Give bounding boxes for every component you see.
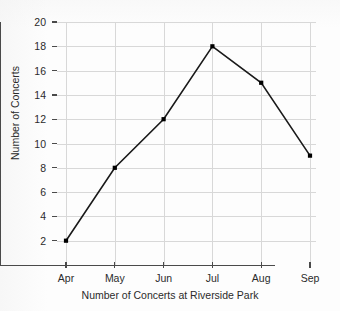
y-tick-mark bbox=[52, 192, 57, 193]
y-tick-mark bbox=[52, 240, 57, 241]
y-tick-mark bbox=[52, 94, 57, 95]
plot-area bbox=[57, 22, 316, 265]
x-tick-mark bbox=[114, 262, 115, 268]
y-tick-label: 16 bbox=[24, 66, 46, 77]
y-tick-label: 20 bbox=[24, 17, 46, 28]
series-markers bbox=[64, 44, 312, 243]
line-chart: 2468101214161820 AprMayJunJulAugSep Numb… bbox=[0, 0, 340, 311]
x-tick-label: Jul bbox=[192, 273, 232, 284]
y-tick-mark bbox=[52, 167, 57, 168]
x-tick-label: May bbox=[95, 273, 135, 284]
y-axis-line bbox=[0, 22, 1, 265]
data-point-marker bbox=[210, 44, 214, 48]
data-point-marker bbox=[308, 154, 312, 158]
data-point-marker bbox=[113, 166, 117, 170]
data-series bbox=[57, 22, 316, 265]
y-tick-label: 18 bbox=[24, 41, 46, 52]
x-tick-mark bbox=[65, 262, 66, 268]
x-tick-mark bbox=[309, 262, 310, 268]
x-axis-line bbox=[0, 265, 275, 266]
y-tick-label: 2 bbox=[24, 236, 46, 247]
y-tick-mark bbox=[52, 70, 57, 71]
y-tick-label: 8 bbox=[24, 163, 46, 174]
y-tick-label: 10 bbox=[24, 139, 46, 150]
x-axis-title: Number of Concerts at Riverside Park bbox=[0, 289, 340, 301]
y-tick-mark bbox=[52, 143, 57, 144]
y-tick-label: 4 bbox=[24, 211, 46, 222]
x-tick-label: Sep bbox=[290, 273, 330, 284]
x-tick-label: Aug bbox=[241, 273, 281, 284]
x-tick-label: Apr bbox=[46, 273, 86, 284]
y-axis-title: Number of Concerts bbox=[9, 28, 21, 198]
y-tick-label: 6 bbox=[24, 187, 46, 198]
data-point-marker bbox=[259, 81, 263, 85]
data-point-marker bbox=[162, 117, 166, 121]
y-tick-mark bbox=[52, 21, 57, 22]
y-tick-label: 14 bbox=[24, 90, 46, 101]
y-tick-label: 12 bbox=[24, 114, 46, 125]
x-tick-mark bbox=[261, 262, 262, 268]
data-point-marker bbox=[64, 239, 68, 243]
series-polyline bbox=[66, 46, 310, 240]
x-tick-mark bbox=[163, 262, 164, 268]
x-tick-label: Jun bbox=[144, 273, 184, 284]
y-tick-mark bbox=[52, 46, 57, 47]
y-tick-mark bbox=[52, 119, 57, 120]
y-tick-mark bbox=[52, 216, 57, 217]
x-tick-mark bbox=[212, 262, 213, 268]
